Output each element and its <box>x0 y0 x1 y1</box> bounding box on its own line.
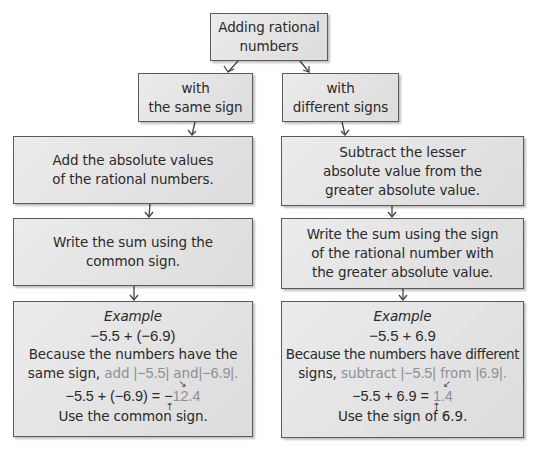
root-node-adding-rational-numbers: Adding rational numbers <box>210 13 328 61</box>
step-line: Write the sum using the <box>53 233 213 252</box>
branch-line: with <box>181 79 209 98</box>
branch-line: the same sign <box>148 98 242 117</box>
example-title: Example <box>374 307 432 326</box>
example-explanation-line1: Because the numbers have different <box>286 345 519 364</box>
example-result: −5.5 + (−6.9) = ↘−12.4 ↑ <box>66 387 201 406</box>
period: . <box>234 365 238 381</box>
explanation-prefix: signs, <box>298 365 337 381</box>
different-signs-step-subtract: Subtract the lesser absolute value from … <box>281 136 524 206</box>
step-line: Write the sum using the sign <box>307 225 499 244</box>
up-arrow-icon: ↑ <box>432 402 440 412</box>
example-title: Example <box>104 307 162 326</box>
highlight-operation: add <box>104 365 129 381</box>
explanation-prefix: same sign, <box>28 365 100 381</box>
branch-different-signs: with different signs <box>282 73 399 122</box>
absolute-value-a: |−5.5| <box>134 365 170 381</box>
example-explanation-line2: same sign, add |−5.5| and|−6.9|. <box>28 364 238 383</box>
step-line: the greater absolute value. <box>312 263 493 282</box>
step-line: of the rational numbers. <box>52 170 213 189</box>
example-explanation-line2: signs, subtract |−5.5| from |6.9|. <box>298 364 507 383</box>
up-arrow-icon: ↑ <box>165 402 173 412</box>
down-arrow-icon: ↘ <box>178 379 186 389</box>
different-signs-step-write-sum: Write the sum using the sign of the rati… <box>281 218 524 289</box>
branch-same-sign: with the same sign <box>138 73 253 122</box>
step-line: Subtract the lesser <box>339 143 465 162</box>
absolute-value-b: |6.9| <box>475 365 502 381</box>
absolute-value-a: |−5.5| <box>400 365 436 381</box>
period: . <box>503 365 507 381</box>
root-node-line: numbers <box>239 37 298 56</box>
absolute-value-b: |−6.9| <box>198 365 234 381</box>
step-line: Add the absolute values <box>53 151 214 170</box>
root-node-line: Adding rational <box>218 18 320 37</box>
branch-line: different signs <box>293 98 388 117</box>
same-sign-example: Example −5.5 + (−6.9) Because the number… <box>13 301 253 437</box>
example-explanation-line1: Because the numbers have the <box>29 345 238 364</box>
highlight-operation: subtract <box>341 365 396 381</box>
same-sign-step-add-absolute-values: Add the absolute values of the rational … <box>13 136 253 204</box>
example-expression: −5.5 + 6.9 <box>369 326 436 345</box>
step-line: absolute value from the <box>323 162 482 181</box>
example-expression: −5.5 + (−6.9) <box>90 326 175 345</box>
result-value: 12.4 <box>173 388 201 404</box>
result-lhs: −5.5 + (−6.9) = <box>66 388 160 404</box>
branch-line: with <box>326 79 354 98</box>
step-line: greater absolute value. <box>325 181 480 200</box>
different-signs-example: Example −5.5 + 6.9 Because the numbers h… <box>281 301 524 438</box>
result-lhs: −5.5 + 6.9 = <box>352 388 429 404</box>
example-note: Use the common sign. <box>58 407 207 426</box>
result-wrap: ↙1.4 ↑ <box>433 387 453 406</box>
down-arrow-icon: ↙ <box>443 379 451 389</box>
step-line: common sign. <box>86 252 180 271</box>
same-sign-step-write-sum: Write the sum using the common sign. <box>13 218 253 286</box>
example-note: Use the sign of 6.9. <box>338 407 467 426</box>
step-line: of the rational number with <box>311 244 494 263</box>
example-result: −5.5 + 6.9 = ↙1.4 ↑ <box>352 387 453 406</box>
result-wrap: ↘−12.4 ↑ <box>164 387 200 406</box>
